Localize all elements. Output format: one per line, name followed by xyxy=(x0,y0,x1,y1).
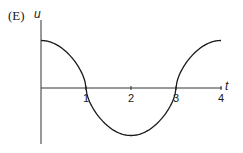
x-tick-label-2: 2 xyxy=(128,93,134,104)
chart-canvas xyxy=(0,0,243,153)
x-axis-label: t xyxy=(225,80,228,92)
x-tick-label-1: 1 xyxy=(83,93,89,104)
panel-label: (E) xyxy=(8,9,25,22)
x-tick-label-3: 3 xyxy=(173,93,179,104)
x-tick-label-4: 4 xyxy=(218,93,224,104)
y-axis-label: u xyxy=(34,8,41,20)
